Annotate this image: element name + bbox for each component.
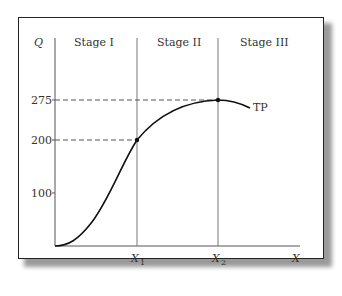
stage2-label: Stage II bbox=[157, 36, 201, 49]
y-tick-200: 200 bbox=[31, 134, 52, 147]
y-axis-label: Q bbox=[34, 36, 43, 49]
y-tick-275: 275 bbox=[31, 94, 52, 107]
stage1-label: Stage I bbox=[74, 36, 114, 49]
y-tick-100: 100 bbox=[31, 187, 52, 200]
x1-label: X bbox=[130, 252, 140, 265]
x2-subscript: 2 bbox=[221, 258, 226, 267]
tp-label: TP bbox=[253, 101, 268, 114]
chart: Q Stage I Stage II Stage III 275 200 100… bbox=[0, 0, 342, 296]
x1-subscript: 1 bbox=[140, 258, 145, 267]
x2-label: X bbox=[211, 252, 221, 265]
point-x1-200 bbox=[135, 138, 139, 142]
point-x2-275 bbox=[216, 98, 220, 102]
stage3-label: Stage III bbox=[240, 36, 289, 49]
x-axis-label: X bbox=[291, 252, 301, 265]
tp-curve bbox=[55, 100, 250, 246]
